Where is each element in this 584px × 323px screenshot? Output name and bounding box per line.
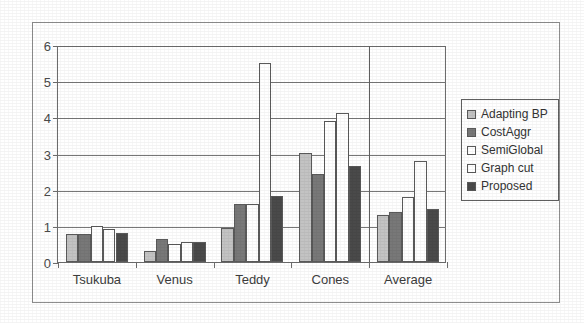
x-axis-label-teddy: Teddy: [235, 273, 270, 286]
bar-group-teddy: [214, 46, 292, 262]
bar-average-graph-cut[interactable]: [414, 161, 426, 262]
y-tick-label-1: 1: [44, 220, 51, 233]
legend-label: CostAggr: [481, 126, 531, 138]
x-tick-mark-0: [58, 262, 59, 268]
y-tick-label-0: 0: [44, 257, 51, 270]
y-tick-label-6: 6: [44, 40, 51, 53]
bar-venus-semiglobal[interactable]: [168, 244, 180, 262]
x-axis-label-tsukuba: Tsukuba: [73, 273, 121, 286]
legend-label: Graph cut: [481, 162, 534, 174]
bar-group-cones: [291, 46, 369, 262]
bar-venus-graph-cut[interactable]: [181, 242, 193, 262]
plot-area: 0123456 TsukubaVenusTeddyConesAverage: [57, 46, 446, 263]
bar-tsukuba-proposed[interactable]: [116, 233, 128, 262]
legend-swatch-icon-adapting-bp: [467, 110, 476, 119]
legend-label: Adapting BP: [481, 108, 548, 120]
bar-cones-adapting-bp[interactable]: [299, 153, 311, 262]
y-tick-label-3: 3: [44, 148, 51, 161]
bar-group-venus: [136, 46, 214, 262]
bar-cones-costaggr[interactable]: [312, 174, 324, 262]
legend-swatch-icon-semiglobal: [467, 146, 476, 155]
chart-figure: 0123456 TsukubaVenusTeddyConesAverage Ad…: [32, 22, 560, 303]
bar-venus-proposed[interactable]: [193, 242, 205, 262]
bar-teddy-proposed[interactable]: [271, 196, 283, 262]
bar-cones-semiglobal[interactable]: [324, 121, 336, 262]
bar-group-tsukuba: [58, 46, 136, 262]
legend-swatch-icon-proposed: [467, 182, 476, 191]
bar-venus-costaggr[interactable]: [156, 239, 168, 263]
y-tick-label-2: 2: [44, 184, 51, 197]
bar-tsukuba-semiglobal[interactable]: [91, 226, 103, 262]
legend-swatch-icon-costaggr: [467, 128, 476, 137]
bar-teddy-graph-cut[interactable]: [259, 63, 271, 262]
bar-tsukuba-costaggr[interactable]: [78, 234, 90, 262]
legend-label: Proposed: [481, 180, 532, 192]
bar-average-adapting-bp[interactable]: [377, 215, 389, 262]
bar-venus-adapting-bp[interactable]: [144, 251, 156, 262]
legend-item-adapting-bp[interactable]: Adapting BP: [467, 105, 553, 123]
bar-average-semiglobal[interactable]: [402, 197, 414, 262]
x-tick-mark-1: [136, 262, 137, 268]
x-axis-label-cones: Cones: [312, 273, 350, 286]
legend-item-semiglobal[interactable]: SemiGlobal: [467, 141, 553, 159]
legend-item-costaggr[interactable]: CostAggr: [467, 123, 553, 141]
chart-legend: Adapting BPCostAggrSemiGlobalGraph cutPr…: [461, 99, 559, 201]
bar-cones-graph-cut[interactable]: [336, 113, 348, 262]
x-axis-label-average: Average: [384, 273, 432, 286]
x-tick-mark-4: [369, 262, 370, 268]
x-axis-label-venus: Venus: [157, 273, 193, 286]
bar-teddy-costaggr[interactable]: [234, 204, 246, 262]
x-tick-mark-3: [291, 262, 292, 268]
bar-tsukuba-adapting-bp[interactable]: [66, 234, 78, 262]
bar-tsukuba-graph-cut[interactable]: [103, 229, 115, 262]
bar-average-costaggr[interactable]: [389, 212, 401, 262]
bar-group-average: [369, 46, 447, 262]
legend-item-graph-cut[interactable]: Graph cut: [467, 159, 553, 177]
x-tick-mark-5: [447, 262, 448, 268]
bar-average-proposed[interactable]: [427, 209, 439, 262]
y-tick-label-5: 5: [44, 76, 51, 89]
bar-teddy-adapting-bp[interactable]: [221, 228, 233, 262]
bar-cones-proposed[interactable]: [349, 166, 361, 262]
bar-teddy-semiglobal[interactable]: [246, 204, 258, 262]
x-tick-mark-2: [214, 262, 215, 268]
y-tick-label-4: 4: [44, 112, 51, 125]
legend-swatch-icon-graph-cut: [467, 164, 476, 173]
legend-item-proposed[interactable]: Proposed: [467, 177, 553, 195]
legend-label: SemiGlobal: [481, 144, 543, 156]
